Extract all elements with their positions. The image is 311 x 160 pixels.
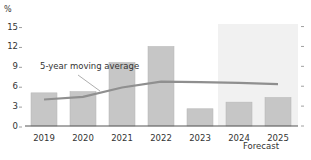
x-tick-label: 2019 bbox=[33, 133, 55, 143]
x-tick-label: 2022 bbox=[150, 133, 172, 143]
y-tick-label: 0 bbox=[13, 121, 18, 131]
y-tick-label: 15 bbox=[7, 22, 18, 32]
y-axis-right-ticks bbox=[301, 27, 304, 126]
y-axis: 03691215 bbox=[7, 22, 22, 131]
y-tick-label: 6 bbox=[13, 81, 18, 91]
chart: % 03691215 2019202020212022202320242025 … bbox=[0, 0, 311, 160]
bar-2025 bbox=[265, 97, 291, 126]
bar-2021 bbox=[109, 62, 135, 126]
bar-2022 bbox=[148, 46, 174, 126]
y-axis-unit: % bbox=[4, 5, 12, 14]
x-tick-label: 2020 bbox=[72, 133, 94, 143]
annotation-leader-line bbox=[78, 75, 100, 91]
bar-2023 bbox=[187, 109, 213, 126]
y-tick-label: 3 bbox=[13, 101, 18, 111]
y-tick-label: 9 bbox=[13, 61, 18, 71]
x-tick-label: 2021 bbox=[111, 133, 133, 143]
y-tick-label: 12 bbox=[7, 41, 18, 51]
moving-average-annotation: 5-year moving average bbox=[40, 61, 139, 71]
bar-2024 bbox=[226, 102, 252, 126]
forecast-label: Forecast bbox=[243, 141, 280, 151]
x-tick-label: 2023 bbox=[189, 133, 211, 143]
